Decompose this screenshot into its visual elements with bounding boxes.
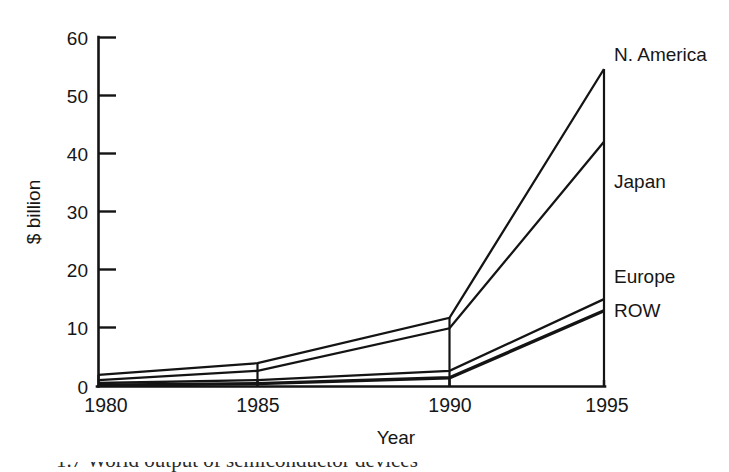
y-tick-label: 10 — [67, 318, 88, 339]
x-tick-label: 1980 — [84, 394, 128, 416]
y-axis-title: $ billion — [23, 180, 44, 244]
stack-connectors — [99, 69, 605, 387]
x-tick-label: 1990 — [428, 394, 472, 416]
series-label-n-america: N. America — [614, 44, 707, 65]
figure-container: 60 50 40 30 20 10 0 1980 1985 1990 1995 … — [0, 0, 729, 472]
series-line-n-america — [99, 69, 605, 375]
x-tick-label: 1985 — [236, 394, 280, 416]
y-tick-label: 60 — [67, 28, 88, 49]
y-tick-label: 40 — [67, 144, 88, 165]
y-tick-label: 20 — [67, 260, 88, 281]
x-tick-label: 1995 — [585, 394, 629, 416]
series-line-row — [99, 311, 605, 386]
y-tick-label: 50 — [67, 86, 88, 107]
y-tick-labels: 60 50 40 30 20 10 0 — [67, 28, 88, 398]
x-axis-title: Year — [377, 427, 416, 448]
y-axis-ticks — [99, 38, 117, 328]
figure-caption-text: 1.7 World output of semiconductor device… — [56, 462, 418, 472]
x-tick-labels: 1980 1985 1990 1995 — [84, 394, 629, 416]
series-label-row: ROW — [614, 300, 661, 321]
series-labels: N. America Japan Europe ROW — [614, 44, 707, 321]
area-chart: 60 50 40 30 20 10 0 1980 1985 1990 1995 … — [0, 0, 729, 472]
y-tick-label: 30 — [67, 202, 88, 223]
figure-caption-clipped: 1.7 World output of semiconductor device… — [0, 462, 729, 472]
series-label-japan: Japan — [614, 171, 666, 192]
series-label-europe: Europe — [614, 266, 675, 287]
